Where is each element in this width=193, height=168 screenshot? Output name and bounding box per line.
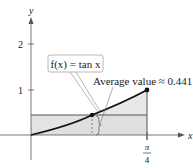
y-axis-arrow-icon [29,17,34,24]
average-point [90,113,94,117]
chart: f(x) = tan x Average value ≈ 0.441 y x 2… [0,0,193,168]
x-tick-label-pi: π [145,142,150,152]
function-label: f(x) = tan x [51,58,101,71]
y-tick-label-1: 1 [18,85,23,96]
endpoint [145,88,150,93]
x-axis-arrow-icon [178,133,185,138]
y-axis-label: y [28,5,34,16]
x-tick-label-4: 4 [145,155,150,165]
average-value-label: Average value ≈ 0.441 [93,75,192,87]
y-tick-label-2: 2 [18,39,23,50]
x-axis-label: x [187,130,193,141]
average-value-rectangle [31,115,147,135]
